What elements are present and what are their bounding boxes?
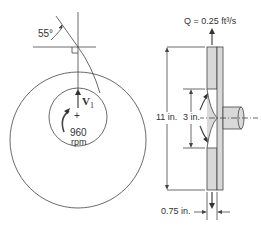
- width-label: 0.75 in.: [161, 207, 191, 216]
- rotation-arrowhead: [64, 108, 70, 114]
- outer-diameter-label: 11 in.: [156, 113, 177, 122]
- inner-diameter-label: 3 in.: [183, 113, 200, 122]
- dim-075-arrowhead-right: [217, 210, 222, 214]
- side-view: [165, 28, 258, 220]
- back-plate: [217, 47, 223, 190]
- speed-unit: rpm: [71, 138, 87, 147]
- center-mark: +: [74, 111, 80, 121]
- upper-shroud: [207, 47, 217, 89]
- dim-11-arrow-bottom: [165, 185, 169, 190]
- dim-3-arrow-bottom: [189, 143, 193, 148]
- right-angle-mark: [72, 47, 78, 53]
- angle-label: 55°: [38, 29, 53, 39]
- lower-shroud: [207, 148, 217, 190]
- angle-arrowhead: [59, 25, 62, 28]
- rotation-arrow: [62, 111, 69, 132]
- velocity-arrowhead: [75, 89, 81, 95]
- velocity-subscript: 1: [90, 101, 94, 110]
- dim-11-arrow-top: [165, 47, 169, 52]
- dim-3-arrow-top: [189, 89, 193, 94]
- dim-075-arrowhead-left: [202, 210, 207, 214]
- velocity-symbol: V: [82, 95, 90, 107]
- velocity-label: V1: [82, 96, 94, 110]
- inlet-curve: [207, 89, 217, 148]
- outlet-arrowhead-bottom: [209, 203, 215, 209]
- outlet-arrowhead-top: [209, 28, 215, 34]
- flow-rate-label: Q = 0.25 ft³/s: [184, 17, 236, 26]
